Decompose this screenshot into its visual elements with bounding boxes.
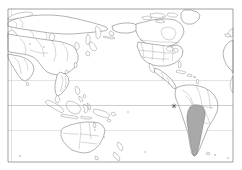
island-dot — [228, 158, 229, 159]
world-map-svg — [0, 0, 242, 170]
island-dot — [163, 17, 164, 18]
island-dot — [30, 44, 31, 45]
island-dot — [104, 137, 105, 138]
island-dot — [44, 47, 45, 48]
location-marker — [172, 104, 177, 109]
world-map-figure — [0, 0, 242, 170]
island-dot — [214, 154, 215, 155]
island-dot — [145, 152, 146, 153]
island-dot — [19, 155, 20, 156]
island-dot — [128, 112, 129, 113]
map-screenshot — [0, 0, 242, 170]
island-dot — [95, 130, 96, 131]
